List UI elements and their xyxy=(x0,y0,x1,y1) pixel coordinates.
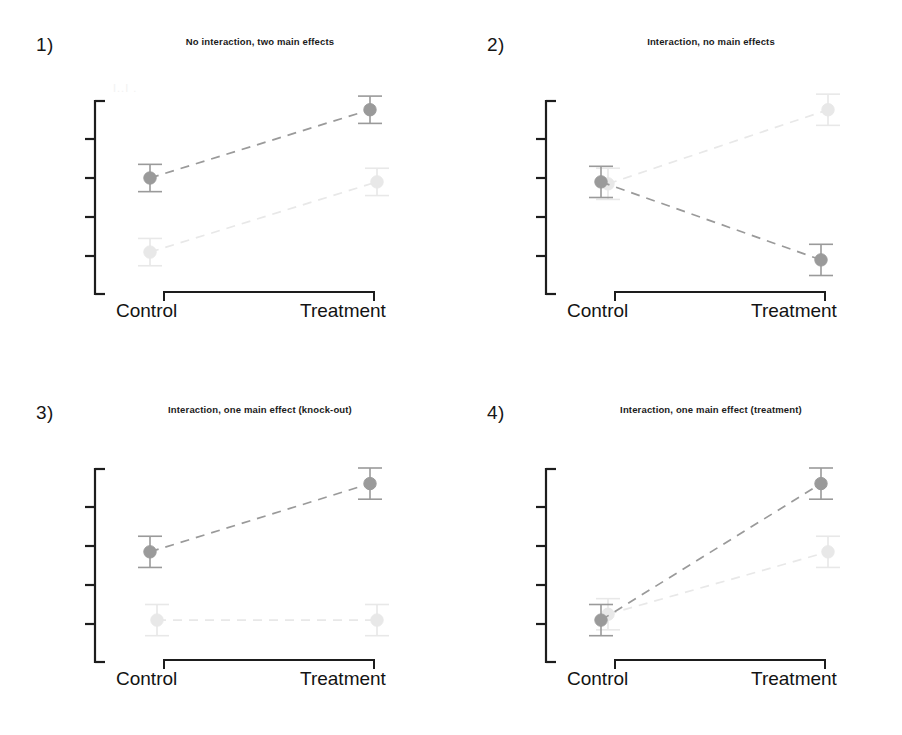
data-point xyxy=(364,477,376,489)
panel-3: 3) Interaction, one main effect (knock-o… xyxy=(0,368,451,735)
panel-1: 1) No interaction, two main effects I..I… xyxy=(0,0,451,367)
x-tick-label-treatment: Treatment xyxy=(300,300,386,322)
series-line xyxy=(601,484,821,620)
series-light xyxy=(138,168,389,266)
series-light xyxy=(145,605,389,636)
series-dark xyxy=(138,96,382,192)
data-point xyxy=(815,254,827,266)
x-tick-label-treatment: Treatment xyxy=(751,300,837,322)
x-tick-label-treatment: Treatment xyxy=(751,668,837,690)
y-axis xyxy=(536,468,556,663)
series-line xyxy=(608,110,828,184)
data-point xyxy=(815,477,827,489)
data-point xyxy=(364,104,376,116)
data-point xyxy=(371,176,383,188)
data-point xyxy=(151,614,163,626)
data-point xyxy=(822,104,834,116)
data-point xyxy=(144,172,156,184)
panel-2: 2) Interaction, no main effects Control … xyxy=(451,0,902,367)
interaction-plots-figure: 1) No interaction, two main effects I..I… xyxy=(0,0,902,735)
data-point xyxy=(822,546,834,558)
x-tick-label-control: Control xyxy=(116,668,177,690)
series-light xyxy=(596,536,840,630)
series-dark xyxy=(589,468,833,636)
series-line xyxy=(150,182,377,252)
y-axis xyxy=(85,100,105,295)
y-axis xyxy=(536,100,556,295)
y-axis xyxy=(85,468,105,663)
series-line xyxy=(150,484,370,552)
data-point xyxy=(144,546,156,558)
series-dark xyxy=(138,468,382,567)
series-light xyxy=(596,94,840,199)
x-tick-label-treatment: Treatment xyxy=(300,668,386,690)
x-tick-label-control: Control xyxy=(116,300,177,322)
series-line xyxy=(608,552,828,614)
series-line xyxy=(601,182,821,260)
data-point xyxy=(595,176,607,188)
series-line xyxy=(150,110,370,178)
panel-4: 4) Interaction, one main effect (treatme… xyxy=(451,368,902,735)
x-tick-label-control: Control xyxy=(567,300,628,322)
data-point xyxy=(595,614,607,626)
data-point xyxy=(144,246,156,258)
x-tick-label-control: Control xyxy=(567,668,628,690)
data-point xyxy=(371,614,383,626)
series-dark xyxy=(589,166,833,275)
